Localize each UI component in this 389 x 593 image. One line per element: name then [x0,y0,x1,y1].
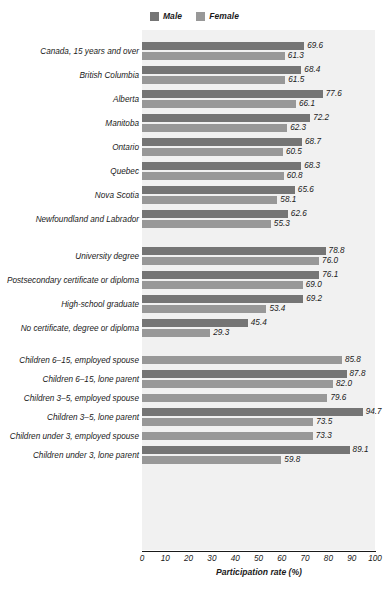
x-tick-60: 60 [277,554,286,563]
bar-value-label: 65.6 [298,186,314,194]
bar-male [142,114,310,122]
legend-entry-male: Male [150,11,182,21]
bar-value-label: 72.2 [313,114,329,122]
legend-label: Male [163,11,182,21]
bar-female [142,281,303,289]
bar-male [142,42,304,50]
bar-value-label: 73.5 [316,418,332,426]
x-tick-10: 10 [161,554,170,563]
bar-value-label: 69.0 [306,281,322,289]
bar-female [142,305,266,313]
category-label: Quebec [0,167,139,176]
category-label: Children 6–15, employed spouse [0,356,139,365]
bar-value-label: 55.3 [274,220,290,228]
bar-value-label: 73.3 [316,432,332,440]
category-label: Ontario [0,143,139,152]
bar-value-label: 68.7 [305,138,321,146]
category-label: High-school graduate [0,300,139,309]
category-label: Postsecondary certificate or diploma [0,276,139,285]
participation-rate-bar-chart: MaleFemale 69.661.368.461.577.666.172.26… [0,0,389,593]
bar-value-label: 60.5 [286,148,302,156]
bar-female [142,394,327,402]
bar-value-label: 58.1 [280,196,296,204]
bar-value-label: 82.0 [336,380,352,388]
bar-female [142,432,313,440]
bar-female [142,329,210,337]
bar-value-label: 69.6 [307,42,323,50]
bar-value-label: 60.8 [287,172,303,180]
bar-value-label: 68.3 [304,162,320,170]
x-axis-title: Participation rate (%) [142,567,376,577]
bar-female [142,220,271,228]
x-tick-70: 70 [301,554,310,563]
bar-value-label: 77.6 [326,90,342,98]
bar-female [142,52,285,60]
bar-male [142,319,248,327]
bar-female [142,172,284,180]
bar-value-label: 76.1 [322,271,338,279]
category-label: Children 6–15, lone parent [0,375,139,384]
bar-value-label: 61.3 [288,52,304,60]
bar-value-label: 66.1 [299,100,315,108]
x-tick-20: 20 [184,554,193,563]
category-label: Children 3–5, employed spouse [0,394,139,403]
x-tick-100: 100 [368,554,382,563]
bar-male [142,446,350,454]
bar-value-label: 45.4 [251,319,267,327]
legend-entry-female: Female [196,11,239,21]
bar-value-label: 68.4 [304,66,320,74]
bar-value-label: 62.6 [291,210,307,218]
bar-male [142,162,301,170]
bar-male [142,90,323,98]
x-tick-0: 0 [140,554,145,563]
bar-female [142,257,319,265]
x-tick-50: 50 [254,554,263,563]
bar-female [142,380,333,388]
bar-female [142,148,283,156]
bar-value-label: 29.3 [213,329,229,337]
bar-value-label: 87.8 [350,370,366,378]
bar-value-label: 85.8 [345,356,361,364]
chart-legend: MaleFemale [0,11,389,21]
category-label: Children 3–5, lone parent [0,413,139,422]
bar-female [142,456,281,464]
bar-female [142,124,287,132]
bar-male [142,186,295,194]
category-label: Alberta [0,95,139,104]
bar-male [142,295,303,303]
bar-female [142,196,277,204]
bar-male [142,370,347,378]
bar-male [142,66,301,74]
category-label-column: Canada, 15 years and overBritish Columbi… [0,30,139,550]
bar-male [142,271,319,279]
category-label: Children under 3, employed spouse [0,432,139,441]
bar-female [142,418,313,426]
bar-male [142,210,288,218]
category-label: University degree [0,252,139,261]
bar-value-label: 61.5 [288,76,304,84]
bar-value-label: 69.2 [306,295,322,303]
bar-male [142,247,326,255]
category-label: Children under 3, lone parent [0,451,139,460]
bar-value-label: 59.8 [284,456,300,464]
legend-label: Female [209,11,239,21]
bar-male [142,138,302,146]
square-swatch-icon [196,12,205,21]
bar-value-label: 76.0 [322,257,338,265]
bar-male [142,408,363,416]
bar-female [142,356,342,364]
x-tick-90: 90 [347,554,356,563]
x-axis-line [142,551,376,552]
category-label: Canada, 15 years and over [0,47,139,56]
category-label: British Columbia [0,71,139,80]
bar-value-label: 62.3 [290,124,306,132]
category-label: Newfoundland and Labrador [0,215,139,224]
bar-value-label: 79.6 [330,394,346,402]
square-swatch-icon [150,12,159,21]
bar-female [142,76,285,84]
bar-value-label: 89.1 [353,446,369,454]
bar-value-label: 78.8 [329,247,345,255]
category-label: Nova Scotia [0,191,139,200]
bar-value-label: 94.7 [366,408,382,416]
category-label: Manitoba [0,119,139,128]
